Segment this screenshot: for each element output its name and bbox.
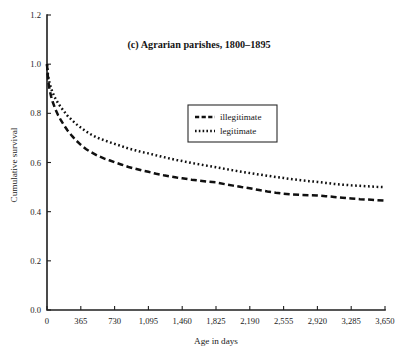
x-tick-label: 0	[45, 316, 49, 326]
y-axis-title: Cumulative survival	[9, 127, 19, 202]
y-tick-label: 0.6	[30, 158, 41, 168]
y-axis-ticks: 0.00.20.40.60.81.01.2	[30, 10, 51, 315]
x-tick-label: 2,555	[274, 316, 293, 326]
survival-curve-chart: (c) Agrarian parishes, 1800–1895 0.00.20…	[0, 0, 402, 355]
y-tick-label: 1.2	[30, 10, 41, 20]
legend-label-illegitimate: illegitimate	[220, 112, 261, 122]
x-tick-label: 365	[74, 316, 87, 326]
y-tick-label: 0.4	[30, 207, 41, 217]
legend-box	[188, 105, 277, 142]
x-tick-label: 2,190	[240, 316, 259, 326]
y-tick-label: 0.0	[30, 305, 41, 315]
x-tick-label: 730	[108, 316, 121, 326]
y-tick-label: 0.8	[30, 108, 41, 118]
x-tick-label: 1,095	[139, 316, 158, 326]
x-tick-label: 2,920	[308, 316, 327, 326]
y-tick-label: 0.2	[30, 256, 41, 266]
axis-lines	[47, 15, 385, 310]
x-tick-label: 1,825	[206, 316, 225, 326]
y-tick-label: 1.0	[30, 59, 41, 69]
chart-title-group: (c) Agrarian parishes, 1800–1895	[127, 39, 270, 51]
x-axis-title: Age in days	[194, 336, 238, 346]
x-tick-label: 1,460	[173, 316, 192, 326]
x-tick-label: 3,650	[375, 316, 394, 326]
x-axis-ticks: 03657301,0951,4601,8252,1902,5552,9203,2…	[45, 306, 395, 326]
figure-container: (c) Agrarian parishes, 1800–1895 0.00.20…	[0, 0, 402, 355]
chart-title: (c) Agrarian parishes, 1800–1895	[127, 39, 270, 51]
chart-legend: illegitimatelegitimate	[188, 105, 277, 142]
legend-label-legitimate: legitimate	[220, 126, 256, 136]
x-tick-label: 3,285	[342, 316, 361, 326]
